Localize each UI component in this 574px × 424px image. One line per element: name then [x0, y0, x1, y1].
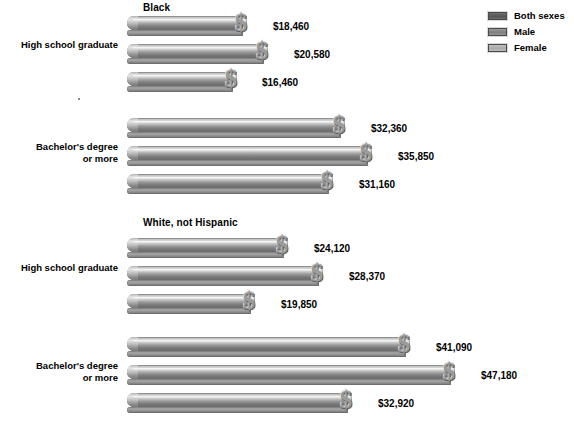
bar-gloss — [133, 396, 350, 399]
legend-label-female: Female — [514, 42, 547, 54]
bar-black-hs-male — [127, 44, 268, 58]
bar-under — [127, 351, 406, 357]
category-label-white-bachelors: Bachelor's degree or more — [0, 360, 118, 383]
value-label-black-bachelors-female: $31,160 — [359, 179, 395, 190]
bar-under — [127, 407, 348, 413]
bar-white-bachelors-both-sexes — [127, 337, 410, 351]
category-label-black-bachelors: Bachelor's degree or more — [0, 141, 118, 164]
value-label-black-bachelors-both-sexes: $32,360 — [371, 123, 407, 134]
artifact-speck — [78, 98, 80, 100]
bar-gloss — [133, 121, 343, 124]
bar-white-bachelors-male — [127, 365, 455, 379]
bar-gloss — [133, 47, 266, 50]
category-label-black-hs: High school graduate — [0, 39, 118, 51]
bar-under — [127, 86, 233, 92]
value-label-white-bachelors-female: $32,920 — [378, 398, 414, 409]
bar-black-hs-both-sexes — [127, 16, 247, 30]
bar-white-hs-male — [127, 266, 323, 280]
value-label-white-hs-female: $19,850 — [281, 299, 317, 310]
bar-under — [127, 308, 251, 314]
bar-black-bachelors-both-sexes — [127, 118, 345, 132]
bar-under — [127, 379, 451, 385]
bar-white-bachelors-female — [127, 393, 352, 407]
bar-under — [127, 188, 329, 194]
bar-gloss — [133, 297, 253, 300]
panel-title-black: Black — [143, 2, 170, 13]
legend-label-both-sexes: Both sexes — [514, 10, 565, 22]
bar-black-bachelors-male — [127, 146, 372, 160]
bar-under — [127, 160, 368, 166]
value-label-white-bachelors-male: $47,180 — [481, 370, 517, 381]
bar-white-hs-both-sexes — [127, 238, 288, 252]
value-label-black-hs-female: $16,460 — [262, 77, 298, 88]
value-label-black-hs-both-sexes: $18,460 — [273, 21, 309, 32]
bar-gloss — [133, 19, 245, 22]
bar-under — [127, 58, 264, 64]
grouped-bar-chart: Black White, not Hispanic High school gr… — [0, 0, 574, 424]
category-label-white-hs: High school graduate — [0, 262, 118, 274]
panel-title-white-not-hispanic: White, not Hispanic — [143, 217, 238, 228]
bar-gloss — [133, 368, 453, 371]
bar-gloss — [133, 241, 286, 244]
value-label-white-bachelors-both-sexes: $41,090 — [436, 342, 472, 353]
value-label-white-hs-male: $28,370 — [349, 271, 385, 282]
value-label-black-hs-male: $20,580 — [294, 49, 330, 60]
bar-under — [127, 280, 319, 286]
bar-under — [127, 252, 284, 258]
bar-black-bachelors-female — [127, 174, 333, 188]
bar-gloss — [133, 177, 331, 180]
value-label-white-hs-both-sexes: $24,120 — [314, 243, 350, 254]
legend-label-male: Male — [514, 26, 535, 38]
legend-swatch-female — [487, 43, 508, 53]
bar-gloss — [133, 269, 321, 272]
bar-gloss — [133, 75, 235, 78]
bar-gloss — [133, 340, 408, 343]
value-label-black-bachelors-male: $35,850 — [398, 151, 434, 162]
bar-gloss — [133, 149, 370, 152]
bar-black-hs-female — [127, 72, 237, 86]
bar-under — [127, 132, 341, 138]
legend-swatch-both-sexes — [487, 11, 508, 21]
bar-white-hs-female — [127, 294, 255, 308]
bar-under — [127, 30, 243, 36]
legend-swatch-male — [487, 27, 508, 37]
